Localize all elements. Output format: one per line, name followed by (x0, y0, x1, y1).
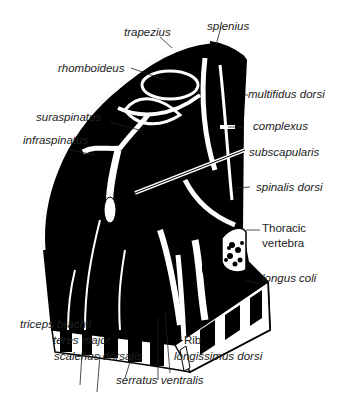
label-longus-coli: longus coli (262, 273, 316, 285)
label-infraspinatus: infraspinatus (23, 135, 88, 147)
label-thoracic-vertebra-line1: Thoracic (262, 223, 306, 235)
label-complexus: complexus (253, 121, 308, 133)
anatomy-diagram: trapezius splenius rhomboideus multifidu… (0, 0, 344, 405)
label-triceps-brachii: triceps brachii (20, 319, 91, 331)
label-subscapularis: subscapularis (249, 147, 319, 159)
label-rhomboideus: rhomboideus (58, 63, 124, 75)
muscle-cross-section-drawing (0, 0, 344, 405)
label-spinalis-dorsi: spinalis dorsi (256, 182, 322, 194)
label-splenius: splenius (207, 21, 249, 33)
label-longissimus-dorsi: longissimus dorsi (174, 351, 262, 363)
label-multifidus-dorsi: multifidus dorsi (248, 89, 325, 101)
label-suraspinatus: suraspinatus (36, 112, 101, 124)
label-rib: Rib (184, 335, 201, 347)
label-serratus-ventralis: serratus ventralis (116, 375, 204, 387)
label-trapezius: trapezius (124, 27, 171, 39)
label-teres-major: teres major (53, 335, 111, 347)
label-thoracic-vertebra-line2: vertebra (262, 238, 304, 250)
label-scalenus-dorsalis: scalenus dorsalis (54, 351, 142, 363)
